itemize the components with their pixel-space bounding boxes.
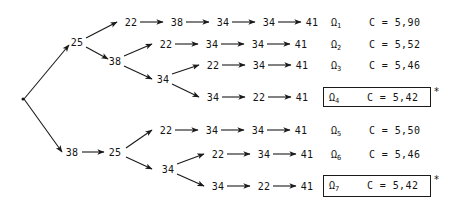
sequence-value: 34 <box>258 149 271 160</box>
omega-index: 1 <box>337 22 341 30</box>
cost-label-1: C = 5,90 <box>369 17 420 28</box>
cost-label-4: C = 5,42 <box>367 92 418 103</box>
cost-label-7: C = 5,42 <box>367 180 418 191</box>
sequence-value: 41 <box>296 60 309 71</box>
omega-label-1: Ω1 <box>331 17 341 28</box>
decision-tree-figure: 25 38 34 38 25 34 22 38 34 34 41 Ω1 C = … <box>0 0 450 214</box>
sequence-value: 41 <box>296 92 309 103</box>
omega-index: 7 <box>335 185 339 193</box>
sequence-value: 34 <box>217 17 230 28</box>
sequence-value: 22 <box>160 39 173 50</box>
sequence-value: 41 <box>306 17 319 28</box>
optimal-star-4: * <box>434 86 439 97</box>
cost-label-2: C = 5,52 <box>369 39 420 50</box>
sequence-value: 34 <box>207 92 220 103</box>
omega-label-7: Ω7 <box>329 180 339 191</box>
branch-node-upper-second: 38 <box>109 56 122 67</box>
sequence-value: 22 <box>212 149 225 160</box>
sequence-value: 22 <box>207 60 220 71</box>
optimal-star-7: * <box>434 174 439 185</box>
omega-label-5: Ω5 <box>331 125 341 136</box>
sequence-value: 34 <box>253 60 266 71</box>
sequence-value: 22 <box>253 92 266 103</box>
sequence-value: 34 <box>252 125 265 136</box>
sequence-value: 41 <box>301 149 314 160</box>
omega-index: 2 <box>337 44 341 52</box>
cost-label-5: C = 5,50 <box>369 125 420 136</box>
sequence-value: 34 <box>206 39 219 50</box>
omega-label-6: Ω6 <box>331 149 341 160</box>
sequence-value: 22 <box>160 125 173 136</box>
sequence-value: 34 <box>263 17 276 28</box>
branch-node-upper-first: 25 <box>71 37 84 48</box>
branch-node-upper-third: 34 <box>157 74 170 85</box>
sequence-value: 41 <box>295 39 308 50</box>
cost-label-3: C = 5,46 <box>369 60 420 71</box>
omega-index: 3 <box>337 65 341 73</box>
omega-index: 5 <box>337 130 341 138</box>
sequence-value: 34 <box>206 125 219 136</box>
branch-node-lower-second: 25 <box>109 147 122 158</box>
omega-label-2: Ω2 <box>331 39 341 50</box>
sequence-value: 38 <box>171 17 184 28</box>
sequence-value: 41 <box>295 125 308 136</box>
omega-index: 4 <box>335 97 339 105</box>
omega-index: 6 <box>337 154 341 162</box>
sequence-value: 34 <box>212 181 225 192</box>
branch-node-lower-third: 34 <box>162 164 175 175</box>
omega-label-4: Ω4 <box>329 92 339 103</box>
sequence-value: 22 <box>125 17 138 28</box>
omega-label-3: Ω3 <box>331 60 341 71</box>
sequence-value: 41 <box>301 181 314 192</box>
sequence-value: 34 <box>252 39 265 50</box>
branch-node-lower-first: 38 <box>66 147 79 158</box>
sequence-value: 22 <box>258 181 271 192</box>
tree-root-node <box>22 98 25 101</box>
cost-label-6: C = 5,46 <box>369 149 420 160</box>
